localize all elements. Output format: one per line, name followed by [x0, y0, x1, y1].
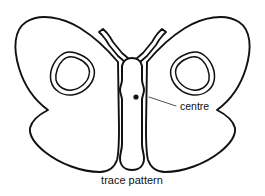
centre-dot-marker	[133, 94, 138, 99]
butterfly-body	[120, 58, 144, 170]
centre-label: centre	[180, 100, 209, 112]
butterfly-figure: centre trace pattern	[0, 0, 265, 196]
figure-caption: trace pattern	[101, 174, 163, 186]
butterfly-diagram: centre trace pattern	[0, 0, 265, 196]
